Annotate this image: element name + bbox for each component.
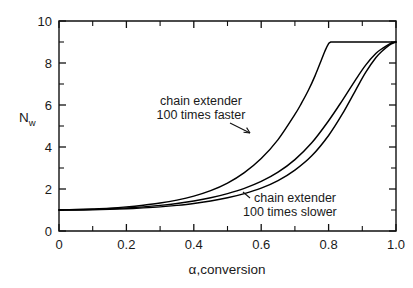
y-tick-label: 2 (45, 182, 52, 197)
x-tick-label: 0.8 (320, 237, 338, 252)
annotation-slower-line1: chain extender (254, 191, 336, 205)
y-axis-title-subscript: w (28, 117, 36, 128)
chart-canvas: 0246810 00.20.40.60.81.0 Nw α,conversion… (0, 0, 413, 288)
chart-figure: 0246810 00.20.40.60.81.0 Nw α,conversion… (0, 0, 413, 288)
x-tick-label: 0.4 (185, 237, 203, 252)
y-axis-title-base: N (19, 110, 29, 125)
x-tick-label: 0.2 (117, 237, 135, 252)
y-tick-label: 6 (45, 98, 52, 113)
y-tick-label: 4 (45, 140, 52, 155)
y-tick-label: 0 (45, 224, 52, 239)
x-tick-label: 0 (55, 237, 62, 252)
annotation-faster-line1: chain extender (160, 94, 242, 108)
x-axis-title: α,conversion (189, 262, 266, 277)
x-tick-label: 0.6 (252, 237, 270, 252)
annotation-slower: chain extender 100 times slower (243, 191, 337, 219)
annotation-slower-line2: 100 times slower (243, 205, 337, 219)
x-tick-label: 1.0 (387, 237, 405, 252)
annotation-faster-line2: 100 times faster (157, 108, 246, 122)
y-tick-label: 10 (38, 14, 52, 29)
y-tick-label: 8 (45, 56, 52, 71)
